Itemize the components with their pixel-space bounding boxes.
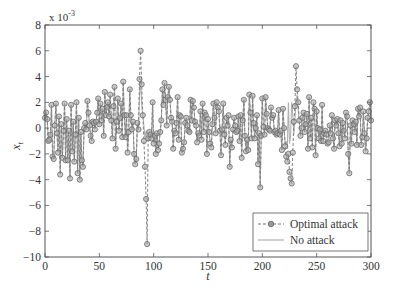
data-point-marker: [162, 80, 167, 85]
data-point-marker: [308, 136, 313, 141]
data-point-marker: [346, 151, 351, 156]
data-point-marker: [313, 153, 318, 158]
data-point-marker: [207, 129, 212, 134]
data-point-marker: [157, 141, 162, 146]
data-point-marker: [66, 128, 71, 133]
data-point-marker: [101, 133, 106, 138]
data-point-marker: [132, 151, 137, 156]
data-point-marker: [199, 137, 204, 142]
data-point-marker: [229, 145, 234, 150]
data-point-marker: [109, 118, 114, 123]
data-point-marker: [228, 137, 233, 142]
data-point-marker: [173, 131, 178, 136]
data-point-marker: [159, 118, 164, 123]
data-point-marker: [220, 127, 225, 132]
data-point-marker: [92, 127, 97, 132]
data-point-marker: [307, 95, 312, 100]
data-point-marker: [171, 146, 176, 151]
data-point-marker: [336, 131, 341, 136]
data-point-marker: [289, 181, 294, 186]
data-point-marker: [317, 127, 322, 132]
y-tick-label: 6: [35, 45, 41, 57]
data-point-marker: [139, 82, 144, 87]
svg-text:Optimal attack: Optimal attack: [290, 218, 358, 231]
data-point-marker: [216, 109, 221, 114]
data-point-marker: [204, 151, 209, 156]
data-point-marker: [80, 164, 85, 169]
data-point-marker: [190, 98, 195, 103]
data-point-marker: [69, 102, 74, 107]
data-point-marker: [155, 147, 160, 152]
data-point-marker: [176, 137, 181, 142]
data-point-marker: [304, 111, 309, 116]
data-point-marker: [140, 113, 145, 118]
data-point-marker: [298, 133, 303, 138]
data-point-marker: [314, 109, 319, 114]
data-point-marker: [201, 129, 206, 134]
data-point-marker: [105, 100, 110, 105]
data-point-marker: [310, 145, 315, 150]
data-point-marker: [86, 110, 91, 115]
data-point-marker: [51, 156, 56, 161]
data-point-marker: [67, 176, 72, 181]
data-point-marker: [239, 155, 244, 160]
data-point-marker: [288, 176, 293, 181]
data-point-marker: [138, 48, 143, 53]
data-point-marker: [144, 196, 149, 201]
data-point-marker: [164, 123, 169, 128]
data-point-marker: [96, 96, 101, 101]
data-point-marker: [222, 132, 227, 137]
data-point-marker: [248, 110, 253, 115]
data-point-marker: [88, 133, 93, 138]
data-point-marker: [334, 123, 339, 128]
data-point-marker: [180, 146, 185, 151]
data-point-marker: [57, 114, 62, 119]
data-point-marker: [258, 185, 263, 190]
data-point-marker: [52, 123, 57, 128]
data-point-marker: [85, 98, 90, 103]
data-point-marker: [252, 136, 257, 141]
svg-text:xt: xt: [9, 141, 25, 150]
data-point-marker: [283, 144, 288, 149]
data-point-marker: [121, 79, 126, 84]
data-point-marker: [99, 118, 104, 123]
data-point-marker: [74, 100, 79, 105]
data-point-marker: [226, 113, 231, 118]
data-point-marker: [205, 117, 210, 122]
x-tick-label: 0: [42, 260, 48, 272]
data-point-marker: [353, 119, 358, 124]
data-point-marker: [167, 97, 172, 102]
data-point-marker: [184, 115, 189, 120]
data-point-marker: [161, 102, 166, 107]
data-point-marker: [55, 150, 60, 155]
data-point-marker: [77, 177, 82, 182]
data-point-marker: [175, 95, 180, 100]
data-point-marker: [218, 153, 223, 158]
y-tick-label: −8: [29, 225, 41, 237]
data-point-marker: [59, 122, 64, 127]
data-point-marker: [233, 123, 238, 128]
data-point-marker: [287, 169, 292, 174]
data-point-marker: [282, 126, 287, 131]
data-point-marker: [340, 120, 345, 125]
data-point-marker: [47, 137, 52, 142]
data-point-marker: [296, 100, 301, 105]
data-point-marker: [295, 87, 300, 92]
y-tick-label: −10: [23, 251, 41, 263]
data-point-marker: [255, 162, 260, 167]
data-point-marker: [285, 159, 290, 164]
data-point-marker: [238, 113, 243, 118]
data-point-marker: [145, 242, 150, 247]
data-point-marker: [61, 128, 66, 133]
data-point-marker: [44, 110, 49, 115]
x-tick-label: 100: [145, 260, 163, 272]
data-point-marker: [330, 136, 335, 141]
data-point-marker: [110, 136, 115, 141]
x-tick-label: 250: [308, 260, 326, 272]
y-tick-label: −2: [29, 148, 41, 160]
y-tick-label: 0: [35, 122, 41, 134]
data-point-marker: [253, 126, 258, 131]
data-point-marker: [342, 136, 347, 141]
data-point-marker: [352, 129, 357, 134]
data-point-marker: [129, 127, 134, 132]
